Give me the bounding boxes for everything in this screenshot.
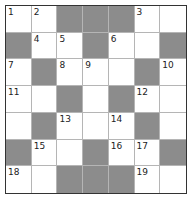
clue-number: 9 [85,60,91,70]
crossword-cell[interactable]: 3 [135,6,161,33]
crossword-cell[interactable] [32,166,58,193]
crossword-cell[interactable]: 5 [57,33,83,60]
clue-number: 16 [111,141,122,151]
clue-number: 10 [162,60,173,70]
black-square [135,59,161,86]
crossword-cell[interactable] [160,166,186,193]
crossword-cell[interactable]: 14 [109,113,135,140]
crossword-cell[interactable]: 11 [6,86,32,113]
black-square [83,33,109,60]
black-square [57,166,83,193]
crossword-cell[interactable]: 4 [32,33,58,60]
black-square [109,6,135,33]
crossword-cell[interactable]: 15 [32,140,58,167]
crossword-cell[interactable]: 8 [57,59,83,86]
black-square [83,6,109,33]
black-square [160,33,186,60]
clue-number: 4 [34,34,40,44]
crossword-cell[interactable]: 19 [135,166,161,193]
black-square [57,6,83,33]
clue-number: 11 [8,87,19,97]
clue-number: 5 [59,34,65,44]
crossword-cell[interactable] [83,86,109,113]
clue-number: 3 [137,7,143,17]
crossword-cell[interactable] [32,86,58,113]
black-square [83,166,109,193]
clue-number: 19 [137,167,148,177]
crossword-grid: 12345678910111213141516171819 [5,5,187,194]
clue-number: 14 [111,114,122,124]
clue-number: 8 [59,60,65,70]
crossword-cell[interactable] [6,113,32,140]
clue-number: 2 [34,7,40,17]
crossword-cell[interactable]: 10 [160,59,186,86]
clue-number: 13 [59,114,70,124]
crossword-cell[interactable]: 16 [109,140,135,167]
black-square [83,140,109,167]
crossword-cell[interactable] [57,140,83,167]
crossword-cell[interactable]: 9 [83,59,109,86]
black-square [109,166,135,193]
clue-number: 6 [111,34,117,44]
crossword-cell[interactable] [160,86,186,113]
crossword-cell[interactable] [160,113,186,140]
black-square [57,86,83,113]
crossword-cell[interactable] [109,59,135,86]
crossword-cell[interactable] [83,113,109,140]
clue-number: 17 [137,141,148,151]
black-square [160,140,186,167]
crossword-cell[interactable]: 12 [135,86,161,113]
clue-number: 7 [8,60,14,70]
black-square [6,140,32,167]
crossword-cell[interactable]: 18 [6,166,32,193]
crossword-cell[interactable]: 2 [32,6,58,33]
black-square [32,59,58,86]
crossword-cell[interactable] [160,6,186,33]
clue-number: 1 [8,7,14,17]
crossword-cell[interactable]: 13 [57,113,83,140]
clue-number: 18 [8,167,19,177]
clue-number: 15 [34,141,45,151]
crossword-cell[interactable] [135,33,161,60]
crossword-cell[interactable]: 7 [6,59,32,86]
black-square [109,86,135,113]
clue-number: 12 [137,87,148,97]
black-square [6,33,32,60]
crossword-cell[interactable]: 17 [135,140,161,167]
crossword-cell[interactable]: 6 [109,33,135,60]
black-square [32,113,58,140]
crossword-cell[interactable]: 1 [6,6,32,33]
black-square [135,113,161,140]
